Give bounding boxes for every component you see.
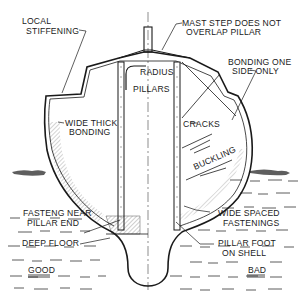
svg-text:ON SHELL: ON SHELL <box>222 248 266 258</box>
svg-text:BAD: BAD <box>248 265 266 275</box>
svg-text:FASTENINGS: FASTENINGS <box>223 218 280 228</box>
pillar-right <box>174 62 180 230</box>
pillar-left <box>118 62 124 230</box>
svg-text:PILLAR END: PILLAR END <box>27 218 79 228</box>
svg-text:OVERLAP PILLAR: OVERLAP PILLAR <box>186 27 261 37</box>
svg-text:STIFFENING: STIFFENING <box>26 26 79 36</box>
label-pillar-foot-on-shell: PILLAR FOOT ON SHELL <box>218 238 277 258</box>
label-deep-floor: DEEP FLOOR <box>22 238 79 248</box>
label-local-stiffening: LOCAL STIFFENING <box>22 16 79 36</box>
label-good: GOOD <box>28 265 55 277</box>
svg-text:FASTENG NEAR: FASTENG NEAR <box>23 208 92 218</box>
svg-text:PILLAR FOOT: PILLAR FOOT <box>218 238 277 248</box>
mast <box>144 12 152 290</box>
svg-text:WIDE SPACED: WIDE SPACED <box>218 208 280 218</box>
waterline-left <box>12 170 46 176</box>
deep-floor <box>106 216 140 234</box>
label-wide-thick-bonding: WIDE THICK BONDING <box>65 118 118 137</box>
label-bonding-one-side: BONDING ONE SIDE ONLY <box>228 57 291 76</box>
hull-section-diagram: LOCAL STIFFENING MAST STEP DOES NOT OVER… <box>0 0 305 300</box>
svg-text:BONDING: BONDING <box>69 127 111 137</box>
label-mast-step: MAST STEP DOES NOT OVERLAP PILLAR <box>182 18 282 37</box>
label-bad: BAD <box>247 265 266 277</box>
svg-text:LOCAL: LOCAL <box>22 16 51 26</box>
svg-text:GOOD: GOOD <box>28 265 55 275</box>
label-radius: RADIUS <box>140 67 174 77</box>
label-pillars: PILLARS <box>133 84 170 94</box>
label-wide-spaced-fastenings: WIDE SPACED FASTENINGS <box>218 208 280 228</box>
waterline-right <box>250 170 290 176</box>
label-cracks: CRACKS <box>183 119 220 129</box>
label-fasteng-near-pillar-end: FASTENG NEAR PILLAR END <box>23 208 92 228</box>
svg-text:SIDE ONLY: SIDE ONLY <box>232 66 279 76</box>
